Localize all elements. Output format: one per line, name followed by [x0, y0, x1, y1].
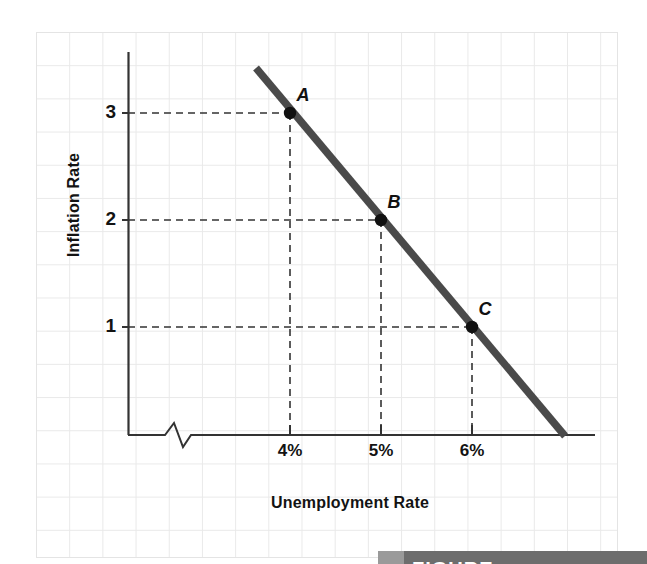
phillips-curve-line — [256, 68, 565, 436]
data-point-c — [466, 321, 478, 333]
point-label-c: C — [470, 299, 500, 320]
x-tick-label-6pct: 6% — [440, 441, 504, 461]
data-point-b — [375, 214, 387, 226]
phillips-curve-plot — [0, 0, 647, 564]
y-axis-ticks — [122, 113, 128, 327]
figure-caption-banner: FIGURE — [378, 551, 647, 564]
x-axis-ticks — [290, 425, 472, 435]
x-tick-label-5pct: 5% — [349, 441, 413, 461]
x-axis-title: Unemployment Rate — [190, 494, 510, 512]
data-point-a — [284, 107, 296, 119]
x-tick-label-4pct: 4% — [258, 441, 322, 461]
y-tick-label-2: 2 — [88, 208, 116, 230]
y-tick-label-3: 3 — [88, 101, 116, 123]
guide-lines-horizontal — [128, 113, 472, 327]
point-label-b: B — [379, 192, 409, 213]
guide-lines-vertical — [290, 113, 472, 432]
figure-banner-swatch — [378, 551, 404, 564]
y-tick-label-1: 1 — [88, 315, 116, 337]
y-axis-title: Inflation Rate — [65, 125, 83, 285]
figure-canvas: Inflation Rate Unemployment Rate 3 2 1 4… — [0, 0, 647, 564]
figure-caption-text: FIGURE — [412, 558, 494, 564]
point-label-a: A — [288, 85, 318, 106]
